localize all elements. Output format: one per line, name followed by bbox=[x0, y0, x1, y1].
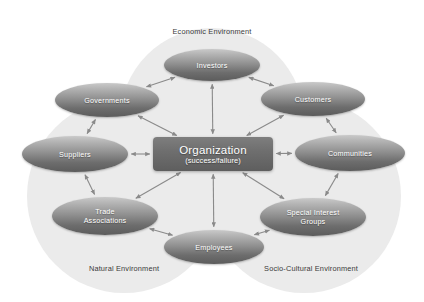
stakeholder-node-trade-associations[interactable]: TradeAssociations bbox=[52, 197, 158, 235]
stakeholder-node-label: Customers bbox=[291, 95, 336, 104]
stakeholder-node-suppliers[interactable]: Suppliers bbox=[22, 136, 128, 172]
environment-label-socio: Socio-Cultural Environment bbox=[264, 264, 358, 273]
environment-label-economic: Economic Environment bbox=[173, 27, 252, 36]
stakeholder-node-communities[interactable]: Communities bbox=[295, 135, 405, 171]
stakeholder-node-special-interest[interactable]: Special InterestGroups bbox=[260, 198, 366, 236]
stakeholder-node-employees[interactable]: Employees bbox=[164, 230, 264, 264]
stakeholder-node-label: Special InterestGroups bbox=[283, 208, 344, 226]
stakeholder-node-label: Governments bbox=[80, 96, 133, 105]
connection-employees-to-center bbox=[213, 174, 214, 227]
stakeholder-node-label: Investors bbox=[193, 61, 232, 70]
organization-center-box[interactable]: Organization (success/failure) bbox=[153, 137, 273, 171]
stakeholder-node-label: Communities bbox=[324, 149, 376, 158]
organization-subtitle: (success/failure) bbox=[185, 156, 241, 165]
stakeholder-node-label: TradeAssociations bbox=[80, 207, 131, 225]
stakeholder-node-label: Suppliers bbox=[55, 150, 95, 159]
connection-investors-to-center bbox=[212, 84, 213, 134]
environment-label-natural: Natural Environment bbox=[89, 264, 159, 273]
organization-title: Organization bbox=[179, 144, 247, 156]
stakeholder-node-governments[interactable]: Governments bbox=[55, 83, 159, 117]
stakeholder-node-investors[interactable]: Investors bbox=[164, 49, 260, 81]
diagram-canvas: Economic EnvironmentNatural EnvironmentS… bbox=[0, 0, 424, 302]
stakeholder-node-label: Employees bbox=[191, 243, 236, 252]
stakeholder-node-customers[interactable]: Customers bbox=[261, 82, 365, 116]
